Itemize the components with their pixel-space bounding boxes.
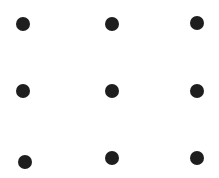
grid-dot-r1-c0 <box>16 84 30 98</box>
grid-dot-r1-c1 <box>105 84 119 98</box>
grid-dot-r0-c2 <box>190 16 204 30</box>
grid-dot-r1-c2 <box>190 84 204 98</box>
grid-dot-r0-c1 <box>105 17 119 31</box>
grid-dot-r2-c0 <box>18 155 32 169</box>
dot-grid-canvas <box>0 0 219 178</box>
grid-dot-r2-c1 <box>105 151 119 165</box>
grid-dot-r2-c2 <box>190 151 204 165</box>
grid-dot-r0-c0 <box>16 17 30 31</box>
